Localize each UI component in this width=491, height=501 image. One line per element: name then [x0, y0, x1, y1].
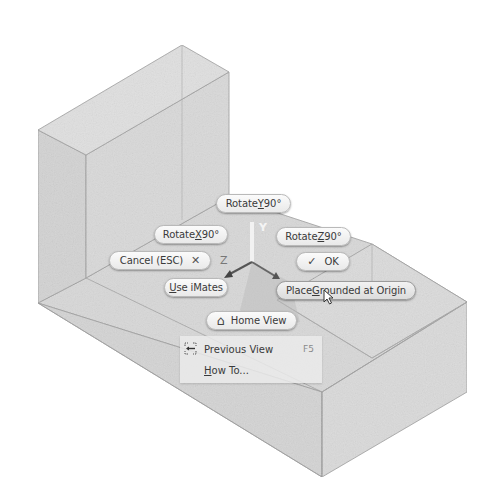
place-grounded-at-origin-button[interactable]: Place Grounded at Origin — [276, 281, 416, 300]
rotate-z-90-button[interactable]: Rotate Z 90° — [276, 227, 351, 246]
menu-item-previous-view[interactable]: Previous View F5 — [180, 339, 322, 359]
close-icon: ✕ — [191, 254, 200, 267]
y-axis-label: Y — [259, 221, 267, 234]
menu-item-shortcut: F5 — [303, 344, 314, 354]
ok-button[interactable]: ✓OK — [296, 252, 350, 271]
menu-item-label: How To... — [204, 365, 249, 376]
wall-left-face — [38, 130, 86, 303]
rotate-y-90-button[interactable]: Rotate Y 90° — [216, 194, 291, 213]
menu-item-how-to[interactable]: How To... — [180, 360, 322, 380]
cancel-button[interactable]: Cancel (ESC)✕ — [109, 251, 211, 270]
use-imates-button[interactable]: Use iMates — [164, 278, 228, 297]
previous-view-icon — [184, 342, 197, 355]
z-axis-label: Z — [220, 254, 228, 267]
home-icon: ⌂ — [217, 313, 225, 328]
home-view-button[interactable]: ⌂Home View — [206, 311, 297, 330]
mouse-cursor-icon — [323, 289, 335, 305]
context-menu: Previous View F5 How To... — [180, 336, 322, 383]
3d-viewport[interactable] — [0, 0, 491, 501]
menu-item-label: Previous View — [204, 344, 273, 355]
rotate-x-90-button[interactable]: Rotate X 90° — [154, 225, 228, 244]
checkmark-icon: ✓ — [307, 255, 316, 268]
